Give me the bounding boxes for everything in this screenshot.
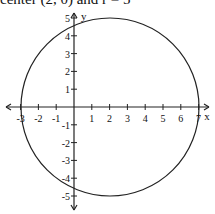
x-tick-label: 6 xyxy=(178,113,183,124)
y-tick-label: -1 xyxy=(62,120,70,131)
y-tick-label: 1 xyxy=(65,84,70,95)
y-tick-label: 2 xyxy=(65,66,70,77)
y-tick-label: 3 xyxy=(65,49,70,60)
x-tick-label: -2 xyxy=(34,113,42,124)
y-tick-label: -3 xyxy=(62,155,70,166)
x-tick-label: 5 xyxy=(161,113,166,124)
x-axis-label: x xyxy=(204,110,210,122)
x-tick-label: 3 xyxy=(125,113,130,124)
y-tick-label: -5 xyxy=(62,191,70,202)
x-tick-label: 2 xyxy=(107,113,112,124)
y-tick-label: 4 xyxy=(65,31,70,42)
y-tick-label: -2 xyxy=(62,138,70,149)
x-tick-label: -3 xyxy=(16,113,24,124)
x-tick-label: -1 xyxy=(52,113,60,124)
x-tick-label: 1 xyxy=(89,113,94,124)
y-tick-label: -4 xyxy=(62,173,70,184)
y-axis-label: y xyxy=(81,10,87,22)
y-tick-label: 5 xyxy=(65,13,70,24)
coordinate-graph: -3 -2 -1 1 2 3 4 5 6 7 5 4 3 2 1 -1 -2 -… xyxy=(0,0,215,214)
x-tick-label: 4 xyxy=(143,113,148,124)
x-tick-label: 7 xyxy=(196,113,201,124)
